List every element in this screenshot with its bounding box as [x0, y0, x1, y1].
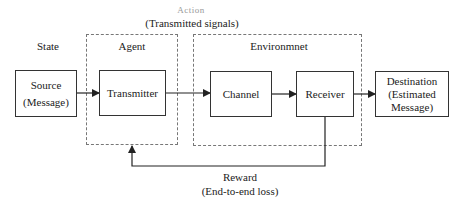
environment-group-label: Environmnet	[244, 40, 314, 53]
state-label: State	[30, 40, 66, 53]
reward-feedback-line	[132, 117, 325, 166]
transmitter-node: Transmitter	[99, 70, 166, 116]
transmitted-signals-label: (Transmitted signals)	[136, 17, 248, 30]
source-title: Source	[31, 79, 62, 92]
action-label: Action	[168, 4, 214, 17]
source-node: Source (Message)	[15, 70, 77, 117]
channel-label: Channel	[223, 88, 260, 101]
destination-subtitle-2: Message)	[391, 101, 433, 114]
destination-title: Destination	[387, 75, 438, 88]
channel-node: Channel	[210, 71, 272, 117]
reward-sublabel: (End-to-end loss)	[185, 185, 295, 198]
transmitter-label: Transmitter	[107, 87, 158, 100]
destination-subtitle-1: (Estimated	[388, 88, 436, 101]
reward-label: Reward	[200, 171, 280, 184]
destination-node: Destination (Estimated Message)	[375, 71, 449, 117]
receiver-label: Receiver	[305, 88, 344, 101]
receiver-node: Receiver	[296, 71, 354, 117]
source-subtitle: (Message)	[23, 96, 69, 109]
agent-group-label: Agent	[110, 40, 154, 53]
